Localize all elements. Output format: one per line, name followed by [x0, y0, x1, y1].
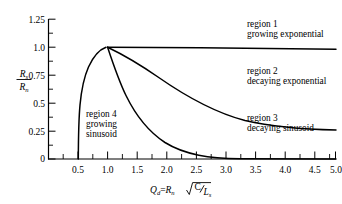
annotation-region-4: region 4 growing sinusoid	[86, 109, 117, 139]
annotation-region-3-line-1: region 3	[247, 113, 278, 123]
chart-canvas: 1.25 1.0 0.75 0.5 0.25 0 0.5 1.0 1.5 2.0…	[0, 0, 342, 204]
y-axis-title-denominator-sub: n	[25, 86, 29, 93]
x-tick-label: 3.5	[250, 165, 262, 175]
figure-container: 1.25 1.0 0.75 0.5 0.25 0 0.5 1.0 1.5 2.0…	[0, 0, 342, 204]
y-tick-label: 0	[40, 154, 45, 164]
annotation-region-1: region 1 growing exponential	[247, 19, 324, 39]
annotation-region-2: region 2 decaying exponential	[247, 66, 327, 86]
y-axis-minor-ticks	[49, 33, 54, 145]
x-axis-title: Qd=Rn C Ls	[150, 182, 212, 198]
x-tick-labels: 0.5 1.0 1.5 2.0 2.5 3.0 3.5 4.0 4.5 5.0	[72, 165, 342, 175]
annotation-region-4-line-2: growing	[86, 119, 117, 129]
svg-text:Ls: Ls	[203, 187, 212, 198]
annotation-region-3: region 3 decaying sinusoid	[247, 113, 314, 133]
y-tick-labels: 1.25 1.0 0.75 0.5 0.25 0	[28, 15, 45, 165]
curve-region-4	[78, 47, 106, 159]
x-tick-label: 3.0	[220, 165, 232, 175]
curve-region-2	[108, 47, 336, 130]
x-tick-label: 0.5	[72, 165, 84, 175]
annotation-region-2-line-2: decaying exponential	[247, 76, 327, 86]
annotation-region-1-line-1: region 1	[247, 19, 278, 29]
x-tick-label: 4.0	[279, 165, 291, 175]
svg-text:Rn: Rn	[18, 82, 29, 93]
svg-text:Qd=Rn: Qd=Rn	[150, 185, 175, 196]
annotation-region-2-line-1: region 2	[247, 66, 278, 76]
x-tick-label: 4.5	[309, 165, 321, 175]
x-axis-title-denominator-sub: s	[209, 191, 212, 198]
curve-region-3	[108, 47, 336, 159]
curve-region-1	[108, 47, 336, 49]
annotation-region-3-line-2: decaying sinusoid	[247, 123, 314, 133]
x-tick-label: 1.5	[131, 165, 143, 175]
y-tick-label: 0.25	[28, 127, 45, 137]
annotation-region-4-line-1: region 4	[86, 109, 117, 119]
annotation-region-1-line-2: growing exponential	[247, 29, 324, 39]
y-tick-label: 1.0	[33, 43, 45, 53]
x-tick-label: 2.0	[161, 165, 173, 175]
x-axis-title-r-sub: n	[171, 189, 175, 196]
x-axis-major-ticks	[78, 152, 336, 160]
annotation-region-4-line-3: sinusoid	[86, 129, 117, 139]
x-axis-title-numerator: C	[195, 182, 201, 192]
y-axis-title-numerator-sub: s	[26, 73, 29, 80]
x-tick-label: 2.5	[190, 165, 202, 175]
svg-text:Rs: Rs	[19, 69, 29, 80]
x-tick-label: 5.0	[330, 165, 342, 175]
x-tick-label: 1.0	[102, 165, 114, 175]
y-tick-label: 1.25	[28, 15, 45, 25]
y-tick-label: 0.5	[33, 99, 45, 109]
